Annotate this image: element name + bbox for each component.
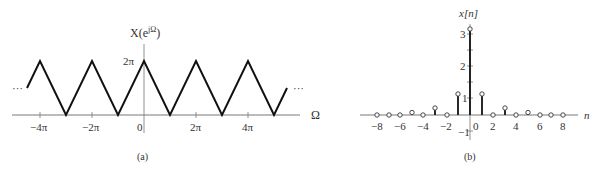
tick-label-4pi: 4π bbox=[242, 121, 254, 133]
xtick-label-4: 4 bbox=[513, 120, 519, 132]
caption-b: (b) bbox=[464, 151, 476, 163]
ytick-label-1: 1 bbox=[462, 92, 468, 104]
tick-label-neg4pi: −4π bbox=[30, 121, 48, 133]
ellipsis-left: ··· bbox=[12, 82, 23, 94]
panel-b: x[n] 3 2 1 −1 −8 −6 −4 −2 0 2 4 6 8 n (b… bbox=[360, 7, 590, 163]
ytick-label-3: 3 bbox=[460, 28, 466, 40]
figure: X(ejΩ) 2π ··· ··· −4π −2π 0 2π 4π Ω (a) bbox=[0, 0, 599, 169]
tick-label-2pi: 2π bbox=[190, 121, 202, 133]
y-axis-label: X(ejΩ) bbox=[130, 25, 160, 40]
tick-label-0: 0 bbox=[137, 121, 143, 133]
ellipsis-right: ··· bbox=[293, 82, 304, 94]
xtick-label-neg2: −2 bbox=[440, 120, 452, 132]
xtick-label-8: 8 bbox=[560, 120, 566, 132]
xtick-label-0: 0 bbox=[473, 120, 479, 132]
xtick-label-neg4: −4 bbox=[417, 120, 429, 132]
tick-label-neg2pi: −2π bbox=[82, 121, 100, 133]
xtick-label-2: 2 bbox=[490, 120, 496, 132]
caption-a: (a) bbox=[137, 151, 148, 163]
xtick-label-neg6: −6 bbox=[394, 120, 406, 132]
peak-label: 2π bbox=[123, 55, 135, 67]
x-axis-label-omega: Ω bbox=[311, 108, 320, 122]
x-axis-label-n: n bbox=[584, 109, 590, 121]
triangle-wave bbox=[27, 61, 287, 115]
xtick-label-6: 6 bbox=[537, 120, 543, 132]
y-axis-label-xn: x[n] bbox=[458, 7, 478, 19]
stems bbox=[435, 31, 505, 115]
xtick-label-neg8: −8 bbox=[371, 120, 383, 132]
ytick-label-neg1: −1 bbox=[458, 126, 470, 138]
ytick-label-2: 2 bbox=[460, 60, 466, 72]
panel-a: X(ejΩ) 2π ··· ··· −4π −2π 0 2π 4π Ω (a) bbox=[12, 25, 320, 163]
